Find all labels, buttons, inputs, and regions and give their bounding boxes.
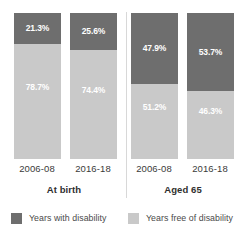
bar-segment-value-label: 47.9% [143,44,167,53]
bar-segment-value-label: 74.4% [82,86,106,95]
x-tick-label-at-birth-2006-08: 2006-08 [7,163,67,174]
legend-swatch-icon [128,213,139,224]
legend-item-years-free-of-disability[interactable]: Years free of disability [128,206,233,230]
bar-segment-free-of-disability[interactable]: 74.4% [70,50,117,159]
bar-aged-65-2016-18[interactable]: 53.7% 46.3% [187,13,234,159]
x-tick-label-aged-65-2016-18: 2016-18 [180,163,240,174]
bar-aged-65-2006-08[interactable]: 47.9% 51.2% [131,13,178,159]
group-label-aged-65: Aged 65 [128,184,238,195]
bar-segment-value-label: 51.2% [143,103,167,112]
bar-at-birth-2006-08[interactable]: 21.3% 78.7% [14,13,61,159]
bar-segment-value-label: 25.6% [82,27,106,36]
x-tick-label-at-birth-2016-18: 2016-18 [63,163,123,174]
plot-area: 21.3% 78.7% 25.6% 74.4% 47.9% 51.2% [0,0,252,200]
bar-at-birth-2016-18[interactable]: 25.6% 74.4% [70,13,117,159]
bar-segment-value-label: 21.3% [26,24,50,33]
legend-swatch-icon [11,213,22,224]
x-tick-label-aged-65-2006-08: 2006-08 [124,163,184,174]
bar-segment-value-label: 46.3% [199,107,223,116]
bar-segment-with-disability[interactable]: 21.3% [14,13,61,44]
stacked-bar-chart: 21.3% 78.7% 25.6% 74.4% 47.9% 51.2% [0,0,252,241]
bar-segment-free-of-disability[interactable]: 78.7% [14,44,61,159]
bar-segment-value-label: 78.7% [26,83,50,92]
legend-item-years-with-disability[interactable]: Years with disability [11,206,107,230]
bar-segment-with-disability[interactable]: 25.6% [70,13,117,50]
legend-item-label: Years free of disability [146,213,233,223]
bar-segment-free-of-disability[interactable]: 51.2% [131,84,178,159]
group-label-at-birth: At birth [9,184,119,195]
bar-segment-with-disability[interactable]: 53.7% [187,13,234,91]
chart-legend: Years with disability Years free of disa… [0,206,252,236]
bar-segment-free-of-disability[interactable]: 46.3% [187,91,234,159]
bar-segment-with-disability[interactable]: 47.9% [131,13,178,84]
bar-segment-value-label: 53.7% [199,48,223,57]
legend-item-label: Years with disability [29,213,107,223]
